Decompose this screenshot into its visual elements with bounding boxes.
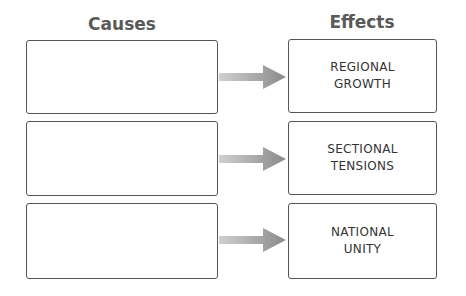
effect-box-regional-growth: REGIONAL GROWTH	[288, 39, 437, 113]
effect-text-1: REGIONAL GROWTH	[330, 59, 394, 93]
arrow-right-icon	[219, 146, 287, 172]
effect-text-3: NATIONAL UNITY	[331, 224, 394, 258]
arrow-right-icon	[219, 64, 287, 90]
cause-box-2[interactable]	[26, 121, 218, 196]
effects-header: Effects	[288, 12, 436, 32]
effect-text-2: SECTIONAL TENSIONS	[327, 141, 397, 175]
cause-box-3[interactable]	[26, 203, 218, 279]
causes-header: Causes	[26, 14, 218, 34]
effect-box-sectional-tensions: SECTIONAL TENSIONS	[288, 121, 437, 195]
effect-box-national-unity: NATIONAL UNITY	[288, 203, 437, 279]
arrow-right-icon	[219, 227, 287, 253]
cause-box-1[interactable]	[26, 40, 218, 114]
